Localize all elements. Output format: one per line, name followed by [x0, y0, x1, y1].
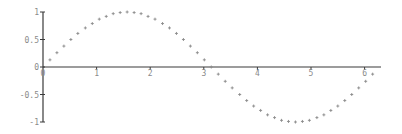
x-tick-label: 4 — [255, 69, 260, 78]
plus-marker-icon — [133, 11, 136, 14]
plus-marker-icon — [175, 32, 178, 35]
plus-marker-icon — [210, 66, 213, 69]
plus-marker-icon — [357, 86, 360, 89]
plus-marker-icon — [196, 51, 199, 54]
x-tick-label: 5 — [309, 69, 314, 78]
sine-scatter-chart: 012345610.50-0.5-1 — [0, 0, 402, 134]
plus-marker-icon — [364, 80, 367, 83]
plus-marker-icon — [231, 86, 234, 89]
plus-marker-icon — [350, 93, 353, 96]
x-tick-label: 2 — [148, 69, 153, 78]
plus-marker-icon — [182, 38, 185, 41]
y-tick-label: -0.5 — [20, 91, 39, 100]
plus-marker-icon — [91, 22, 94, 25]
plus-marker-icon — [154, 18, 157, 21]
plus-marker-icon — [147, 15, 150, 18]
plus-marker-icon — [76, 32, 79, 35]
plus-marker-icon — [217, 73, 220, 76]
y-tick-label: 1 — [34, 8, 39, 17]
y-tick-label: 0 — [34, 63, 39, 72]
axes: 012345610.50-0.5-1 — [20, 8, 381, 127]
plus-marker-icon — [69, 38, 72, 41]
plus-marker-icon — [62, 45, 65, 48]
x-tick-label: 0 — [41, 69, 46, 78]
x-tick-label: 3 — [201, 69, 206, 78]
plus-marker-icon — [105, 15, 108, 18]
plus-marker-icon — [112, 12, 115, 15]
plus-marker-icon — [343, 99, 346, 102]
plus-marker-icon — [238, 93, 241, 96]
plus-marker-icon — [245, 99, 248, 102]
plus-marker-icon — [48, 58, 51, 61]
plus-marker-icon — [140, 12, 143, 15]
plus-marker-icon — [280, 119, 283, 122]
plus-marker-icon — [301, 120, 304, 123]
plus-marker-icon — [55, 51, 58, 54]
plus-marker-icon — [161, 22, 164, 25]
plus-marker-icon — [259, 109, 262, 112]
plus-marker-icon — [315, 116, 318, 119]
x-tick-label: 1 — [94, 69, 99, 78]
plus-marker-icon — [126, 11, 129, 14]
plus-marker-icon — [168, 26, 171, 29]
plus-marker-icon — [84, 26, 87, 29]
plus-marker-icon — [336, 105, 339, 108]
plus-marker-icon — [252, 105, 255, 108]
plus-marker-icon — [98, 18, 101, 21]
plus-marker-icon — [273, 116, 276, 119]
plus-marker-icon — [119, 11, 122, 14]
y-tick-label: -1 — [29, 118, 39, 127]
plus-marker-icon — [294, 121, 297, 124]
y-tick-label: 0.5 — [25, 36, 40, 45]
plus-marker-icon — [371, 73, 374, 76]
plus-marker-icon — [266, 113, 269, 116]
plus-marker-icon — [189, 45, 192, 48]
plus-marker-icon — [308, 119, 311, 122]
plus-marker-icon — [322, 113, 325, 116]
plus-marker-icon — [287, 120, 290, 123]
plus-marker-icon — [224, 80, 227, 83]
plus-marker-icon — [329, 109, 332, 112]
x-tick-label: 6 — [362, 69, 367, 78]
plot-area: 012345610.50-0.5-1 — [0, 0, 402, 134]
plus-marker-icon — [203, 58, 206, 61]
